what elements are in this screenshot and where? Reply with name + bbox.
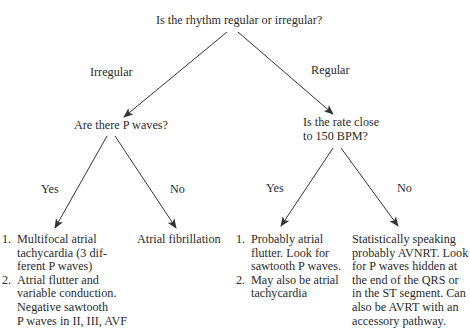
list-item: 1. Multifocal atrial tachycardia (3 dif-… xyxy=(2,233,137,274)
list-line: tachycardia (3 dif- xyxy=(17,247,137,261)
result-line: probably AVNRT. Look xyxy=(352,247,470,261)
list-item: 2. Atrial flutter and variable conductio… xyxy=(2,274,137,328)
leaf-irregular-yes-list: 1. Multifocal atrial tachycardia (3 dif-… xyxy=(2,233,137,328)
list-number: 1. xyxy=(2,233,11,247)
leaf-irregular-yes: 1. Multifocal atrial tachycardia (3 dif-… xyxy=(2,233,137,328)
list-line: flutter. Look for xyxy=(251,247,351,261)
result-line: in the ST segment. Can xyxy=(352,287,470,301)
result-line: for P waves hidden at xyxy=(352,260,470,274)
arrow-pwaves-yes xyxy=(55,136,107,228)
leaf-irregular-no: Atrial fibrillation xyxy=(137,233,221,247)
list-line: Multifocal atrial xyxy=(17,233,137,247)
list-line: variable conduction. xyxy=(17,287,137,301)
question-p-waves: Are there P waves? xyxy=(74,119,168,133)
edge-label-regular: Regular xyxy=(311,64,350,78)
list-number: 2. xyxy=(236,274,245,288)
result-line: also be AVRT with an xyxy=(352,301,470,315)
list-number: 2. xyxy=(2,274,11,288)
list-line: Probably atrial xyxy=(251,233,351,247)
leaf-regular-yes: 1. Probably atrial flutter. Look for saw… xyxy=(236,233,351,301)
edge-label-irregular: Irregular xyxy=(90,66,133,80)
edge-label-rate-yes: Yes xyxy=(266,182,284,196)
result-line: Statistically speaking xyxy=(352,233,470,247)
edge-label-pwaves-yes: Yes xyxy=(41,183,59,197)
arrow-pwaves-no xyxy=(115,136,176,228)
edge-label-pwaves-no: No xyxy=(170,183,185,197)
list-line: May also be atrial xyxy=(251,274,351,288)
list-number: 1. xyxy=(236,233,245,247)
list-line: Negative sawtooth xyxy=(17,301,137,315)
leaf-regular-yes-list: 1. Probably atrial flutter. Look for saw… xyxy=(236,233,351,301)
list-line: tachycardia xyxy=(251,287,351,301)
arrow-rate-no xyxy=(341,148,398,226)
root-question: Is the rhythm regular or irregular? xyxy=(156,14,322,28)
list-line: Atrial flutter and xyxy=(17,274,137,288)
list-line: ferent P waves) xyxy=(17,260,137,274)
list-item: 1. Probably atrial flutter. Look for saw… xyxy=(236,233,351,274)
result-line: the end of the QRS or xyxy=(352,274,470,288)
leaf-regular-no: Statistically speaking probably AVNRT. L… xyxy=(352,233,470,328)
result-line: accessory pathway. xyxy=(352,315,470,328)
arrow-root-to-irregular xyxy=(124,32,227,117)
list-line: P waves in II, III, AVF xyxy=(17,315,137,328)
question-rate-line-1: Is the rate close xyxy=(303,116,423,130)
arrow-rate-yes xyxy=(281,148,333,226)
list-line: sawtooth P waves. xyxy=(251,260,351,274)
edge-label-rate-no: No xyxy=(397,182,412,196)
question-rate-line-2: to 150 BPM? xyxy=(303,130,423,144)
question-rate-150: Is the rate close to 150 BPM? xyxy=(303,116,423,143)
list-item: 2. May also be atrial tachycardia xyxy=(236,274,351,301)
